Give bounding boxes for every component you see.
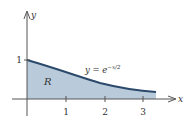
x-tick-label-2: 2	[102, 107, 108, 117]
y-tick-label-1: 1	[16, 55, 22, 65]
equation-base: y = e	[84, 65, 107, 75]
x-tick-label-3: 3	[140, 107, 146, 117]
equation-label: y = e−x/2	[84, 64, 121, 75]
y-axis-label: y	[30, 10, 37, 20]
region-diagram: 1 2 3 1 x y y = e−x/2 R	[0, 0, 193, 125]
region-label: R	[43, 76, 52, 87]
x-axis-label: x	[178, 94, 183, 104]
x-tick-label-1: 1	[63, 107, 69, 117]
equation-exponent: −x/2	[107, 64, 121, 70]
